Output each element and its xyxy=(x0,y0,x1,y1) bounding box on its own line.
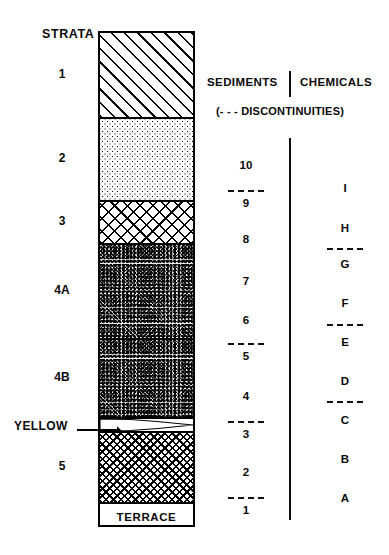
chemical-entry-f: F xyxy=(317,297,373,309)
chemical-entry-b: B xyxy=(317,453,373,465)
chemical-entry-e: E xyxy=(317,336,373,348)
strata-layer-5 xyxy=(100,431,193,502)
strata-label-5: 5 xyxy=(42,459,82,473)
chemical-entry-g: G xyxy=(317,258,373,270)
column-divider-body xyxy=(289,138,291,520)
sediment-entry-7: 7 xyxy=(218,275,274,287)
sediment-entry-5: 5 xyxy=(218,350,274,362)
strata-layer-4a xyxy=(100,243,193,338)
chemical-discontinuity-f-e xyxy=(327,324,363,326)
sediment-entry-6: 6 xyxy=(218,314,274,326)
sediment-entry-1: 1 xyxy=(218,504,274,516)
sediment-entry-2: 2 xyxy=(218,466,274,478)
sediment-discontinuity-10-9 xyxy=(228,190,264,192)
sediment-entry-9: 9 xyxy=(218,197,274,209)
strata-label-1: 1 xyxy=(42,67,82,81)
strata-layer-4b xyxy=(100,338,193,417)
strata-column: TERRACE xyxy=(98,31,195,527)
chemical-entry-i: I xyxy=(317,182,373,194)
chemical-entry-d: D xyxy=(317,375,373,387)
sediment-entry-10: 10 xyxy=(218,159,274,171)
strata-layer-1 xyxy=(100,33,193,117)
yellow-callout-label: YELLOW xyxy=(14,420,68,432)
sediment-discontinuity-6-5 xyxy=(228,343,264,345)
terrace-label: TERRACE xyxy=(117,511,177,523)
chemicals-heading: CHEMICALS xyxy=(300,77,372,89)
chemical-entry-a: A xyxy=(317,492,373,504)
strata-label-3: 3 xyxy=(42,214,82,228)
sediment-entry-8: 8 xyxy=(218,233,274,245)
terrace-box: TERRACE xyxy=(100,502,193,527)
column-divider-header xyxy=(289,71,291,97)
sediment-entry-3: 3 xyxy=(218,428,274,440)
sediment-discontinuity-4-3 xyxy=(228,421,264,423)
yellow-leader-arrow-icon xyxy=(77,425,121,435)
strata-layer-3 xyxy=(100,200,193,243)
strata-label-4b: 4B xyxy=(42,370,82,384)
sediment-entry-4: 4 xyxy=(218,390,274,402)
chemical-discontinuity-d-c xyxy=(327,401,363,403)
discontinuities-note: (- - - DISCONTINUITIES) xyxy=(216,106,344,117)
strata-heading: STRATA xyxy=(42,28,94,41)
chemical-discontinuity-h-g xyxy=(327,248,363,250)
strata-label-4a: 4A xyxy=(42,283,82,297)
strata-layer-2 xyxy=(100,117,193,200)
chemical-entry-h: H xyxy=(317,222,373,234)
stratigraphic-column-figure: STRATA SEDIMENTS CHEMICALS (- - - DISCON… xyxy=(0,0,389,555)
sediments-heading: SEDIMENTS xyxy=(207,77,278,89)
sediment-discontinuity-2-1 xyxy=(228,497,264,499)
chemical-entry-c: C xyxy=(317,414,373,426)
strata-label-2: 2 xyxy=(42,151,82,165)
